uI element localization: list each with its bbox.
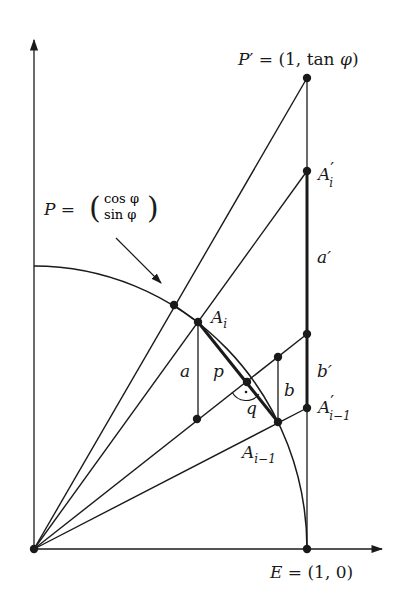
diagram: P′ = (1, tan φ) P = ( cos φ sin φ ) A′i … [0,0,405,603]
point-p [170,301,178,309]
label-a-i: Ai [209,307,227,331]
point-a-i-prime [303,167,311,175]
segment-p-a-i [174,305,198,322]
label-q: q [246,398,257,418]
point-b-top [274,353,282,361]
point-a-foot [193,415,201,423]
point-e [303,545,311,553]
label-a-im1-prime: A′i−1 [316,391,351,423]
label-p-paren-right: ) [147,190,159,225]
ray-to-a-i-prime [34,171,307,549]
label-p-prime: P′ = (1, tan φ) [237,49,359,69]
point-mid-tangent [303,330,311,338]
right-angle-dot [245,391,248,394]
label-p-paren-left: ( [89,190,101,225]
label-p-vec-top: cos φ [104,191,139,206]
point-a-im1-prime [303,404,311,412]
label-a-im1: Ai−1 [240,442,276,466]
label-b: b [284,380,295,400]
label-p: p [213,361,224,381]
label-b-prime: b′ [317,361,332,381]
label-p-eq: P = [43,199,75,219]
point-chord-foot [243,378,251,386]
pointer-arrow [116,238,161,283]
label-a-prime: a′ [317,247,331,267]
label-e: E = (1, 0) [269,562,353,582]
point-a-i [194,318,202,326]
label-a-i-prime: A′i [316,158,334,190]
label-p-vec-bot: sin φ [104,207,136,222]
point-p-prime [303,74,311,82]
point-a-im1 [274,418,282,426]
point-origin [30,545,38,553]
chord-p-q [198,322,278,422]
ray-to-mid [34,334,307,549]
label-a: a [180,361,190,381]
